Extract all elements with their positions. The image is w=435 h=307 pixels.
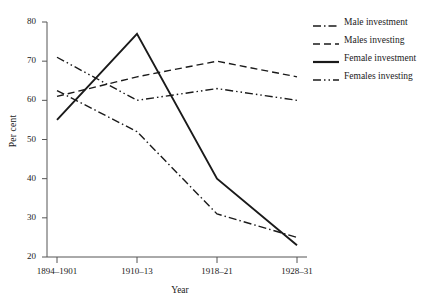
y-tick-marks xyxy=(42,22,47,257)
legend-line-swatch xyxy=(313,71,339,81)
y-tick-label: 30 xyxy=(14,212,36,222)
x-tick-label: 1894–1901 xyxy=(22,266,92,276)
x-axis-title: Year xyxy=(140,285,220,295)
legend-line-swatch xyxy=(313,35,339,45)
x-tick-marks xyxy=(57,257,297,263)
legend-item[interactable]: Females investing xyxy=(313,68,435,84)
legend-line-swatch xyxy=(313,17,339,27)
y-tick-label: 20 xyxy=(14,251,36,261)
legend-label: Male investment xyxy=(344,17,408,27)
legend: Male investmentMales investingFemale inv… xyxy=(313,14,435,86)
legend-item[interactable]: Males investing xyxy=(313,32,435,48)
x-tick-label: 1928–31 xyxy=(262,266,332,276)
y-tick-label: 70 xyxy=(14,55,36,65)
y-axis-title: Per cent xyxy=(8,101,18,161)
line-chart: 20304050607080 1894–19011910–131918–2119… xyxy=(0,0,435,307)
series-line-females-investing xyxy=(57,57,297,100)
legend-item[interactable]: Male investment xyxy=(313,14,435,30)
legend-label: Females investing xyxy=(344,71,413,81)
legend-item[interactable]: Female investment xyxy=(313,50,435,66)
x-tick-label: 1918–21 xyxy=(182,266,252,276)
y-tick-label: 80 xyxy=(14,16,36,26)
series-line-female-investment xyxy=(57,34,297,246)
legend-label: Males investing xyxy=(344,35,404,45)
y-tick-label: 40 xyxy=(14,173,36,183)
data-series-group xyxy=(57,34,297,246)
series-line-males-investing xyxy=(57,61,297,96)
x-tick-label: 1910–13 xyxy=(102,266,172,276)
legend-label: Female investment xyxy=(344,53,416,63)
legend-line-swatch xyxy=(313,53,339,63)
